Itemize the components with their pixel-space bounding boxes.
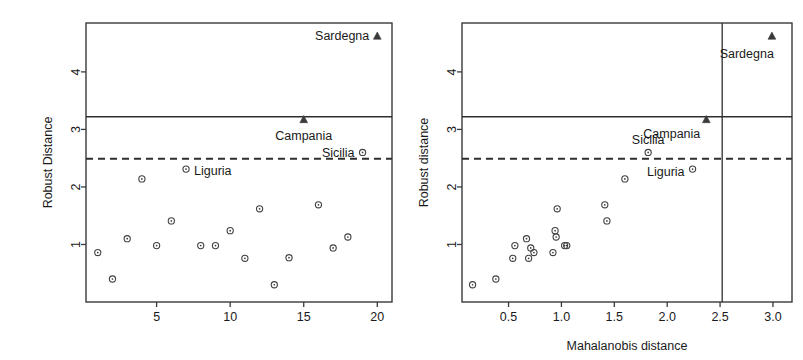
marker-circle-center [514, 245, 516, 247]
x-tick-label: 15 [297, 310, 311, 324]
marker-circle-center [533, 252, 535, 254]
marker-circle-center [495, 278, 497, 280]
data-point [168, 218, 174, 224]
x-tick-label: 1.0 [553, 310, 570, 324]
data-point [286, 255, 292, 261]
x-tick-label: 0.5 [500, 310, 517, 324]
y-tick-label: 4 [69, 68, 83, 75]
data-point [512, 243, 518, 249]
marker-circle-center [566, 245, 568, 247]
y-tick-label: 3 [445, 126, 459, 133]
marker-circle-center [647, 152, 649, 154]
data-point [95, 249, 101, 255]
point-annotation-sicilia: Sicilia [322, 146, 355, 160]
x-tick-label: 2.5 [711, 310, 728, 324]
data-point [602, 202, 608, 208]
marker-circle-center [97, 252, 99, 254]
marker-circle-center [530, 247, 532, 249]
data-point [550, 249, 556, 255]
y-tick-label: 3 [69, 126, 83, 133]
marker-circle-center [244, 257, 246, 259]
data-point [469, 282, 475, 288]
data-point [183, 166, 189, 172]
marker-triangle [768, 32, 776, 39]
x-tick-label: 5 [153, 310, 160, 324]
y-axis-title: Robust Distance [41, 117, 55, 209]
data-point [493, 276, 499, 282]
point-annotation-sardegna: Sardegna [720, 47, 774, 61]
marker-circle-center [556, 208, 558, 210]
data-point [553, 234, 559, 240]
panel-right-dd-plot: 0.51.01.52.02.53.01234SardegnaCampaniaSi… [401, 0, 803, 360]
marker-circle-center [126, 238, 128, 240]
marker-circle-center [347, 236, 349, 238]
y-tick-label: 1 [445, 241, 459, 248]
data-point [523, 236, 529, 242]
data-point [554, 206, 560, 212]
data-point [373, 32, 381, 39]
marker-circle-center [555, 236, 557, 238]
marker-circle-center [288, 257, 290, 259]
data-point [154, 243, 160, 249]
data-point [510, 255, 516, 261]
data-point [526, 255, 532, 261]
left-scatter-plot: 51015201234SardegnaCampaniaSiciliaLiguri… [0, 0, 401, 360]
x-tick-label: 20 [370, 310, 384, 324]
y-tick-label: 2 [445, 183, 459, 190]
data-point [227, 228, 233, 234]
marker-circle-center [692, 168, 694, 170]
marker-circle-center [141, 178, 143, 180]
data-point [330, 245, 336, 251]
data-point [622, 176, 628, 182]
plot-frame [462, 23, 792, 302]
data-point [359, 149, 365, 155]
data-point [212, 243, 218, 249]
data-point [198, 243, 204, 249]
marker-circle-center [512, 257, 514, 259]
data-point [109, 276, 115, 282]
marker-circle-center [362, 152, 364, 154]
marker-circle-center [624, 178, 626, 180]
marker-triangle [373, 32, 381, 39]
marker-circle-center [273, 284, 275, 286]
data-point [552, 228, 558, 234]
x-tick-label: 2.0 [658, 310, 675, 324]
marker-circle-center [259, 208, 261, 210]
marker-circle-center [332, 247, 334, 249]
figure-root: 51015201234SardegnaCampaniaSiciliaLiguri… [0, 0, 803, 360]
x-tick-label: 10 [223, 310, 237, 324]
point-annotation-sicilia: Sicilia [632, 133, 665, 147]
marker-circle-center [318, 204, 320, 206]
data-point [139, 176, 145, 182]
point-annotation-campania: Campania [275, 129, 332, 143]
y-tick-label: 1 [69, 241, 83, 248]
data-point [256, 206, 262, 212]
panel-left-index-plot: 51015201234SardegnaCampaniaSiciliaLiguri… [0, 0, 401, 360]
y-tick-label: 4 [445, 68, 459, 75]
marker-circle-center [215, 245, 217, 247]
marker-circle-center [604, 204, 606, 206]
marker-circle-center [552, 252, 554, 254]
marker-circle-center [229, 230, 231, 232]
data-point [768, 32, 776, 39]
marker-circle-center [170, 220, 172, 222]
marker-circle-center [528, 257, 530, 259]
y-axis-title: Robust distance [417, 118, 431, 208]
point-annotation-sardegna: Sardegna [315, 29, 369, 43]
marker-circle-center [472, 284, 474, 286]
data-point [242, 255, 248, 261]
data-point [531, 249, 537, 255]
right-scatter-plot: 0.51.01.52.02.53.01234SardegnaCampaniaSi… [401, 0, 803, 360]
data-point [345, 234, 351, 240]
x-tick-label: 3.0 [764, 310, 781, 324]
marker-circle-center [526, 238, 528, 240]
data-point [689, 166, 695, 172]
data-point [271, 282, 277, 288]
x-tick-label: 1.5 [606, 310, 623, 324]
marker-circle-center [112, 278, 114, 280]
x-axis-title: Mahalanobis distance [567, 339, 688, 353]
data-point [315, 202, 321, 208]
y-tick-label: 2 [69, 183, 83, 190]
marker-circle-center [200, 245, 202, 247]
marker-circle-center [185, 168, 187, 170]
